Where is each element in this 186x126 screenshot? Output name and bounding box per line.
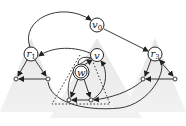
node-v0: v0: [90, 18, 104, 32]
node-w: w: [73, 64, 89, 80]
leaf-w-left: [67, 98, 71, 102]
leaf-w-right: [89, 98, 93, 102]
leaf-r3-right: [173, 77, 177, 81]
leaf-r1-left: [14, 77, 18, 81]
diagram-canvas: v0 r1 r3 v w: [0, 0, 186, 126]
svg-text:v: v: [94, 50, 100, 61]
node-v: v: [91, 49, 104, 62]
leaf-r1-right: [46, 77, 50, 81]
leaf-r3-left: [141, 77, 145, 81]
node-r1: r1: [24, 47, 38, 61]
node-r3: r3: [148, 47, 162, 61]
svg-text:w: w: [77, 67, 86, 78]
edge-v-to-r1: [39, 48, 90, 56]
graph-diagram: v0 r1 r3 v w: [0, 0, 186, 126]
edge-v0-to-r3: [104, 29, 148, 51]
edge-r1-to-v0: [28, 12, 91, 47]
